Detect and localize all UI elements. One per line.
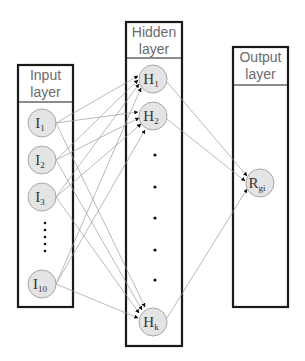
neural-network-diagram: Input layer Hidden layer Output layer: [0, 0, 305, 361]
hidden-layer-title-line1: Hidden: [132, 24, 176, 40]
hidden-node-h1: H1: [139, 65, 167, 93]
hidden-node-hk: Hk: [139, 308, 167, 336]
output-layer-title-line2: layer: [245, 66, 276, 82]
input-layer-title-line2: layer: [30, 84, 61, 100]
input-node-i3: I3: [28, 183, 56, 211]
hidden-node-h2: H2: [139, 102, 167, 130]
input-node-i2: I2: [28, 146, 56, 174]
input-node-i10: I10: [28, 270, 56, 298]
hidden-layer-title-line2: layer: [139, 41, 170, 57]
input-layer-title-line1: Input: [30, 67, 61, 83]
output-node-rgi: Rgi: [246, 169, 274, 197]
input-node-i1: I1: [28, 109, 56, 137]
output-layer-title-line1: Output: [239, 49, 281, 65]
